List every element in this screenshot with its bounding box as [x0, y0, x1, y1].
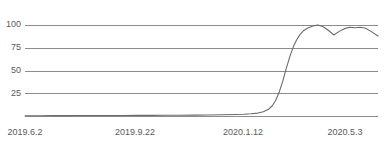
- x-tick-label-0: 2019.6.2: [7, 127, 42, 137]
- series-lines: [25, 25, 378, 116]
- y-tick-label-50: 50: [11, 65, 21, 75]
- x-tick-label-3: 2020.5.3: [328, 127, 363, 137]
- x-axis-tick-labels: 2019.6.22019.9.222020.1.122020.5.3: [7, 127, 362, 137]
- y-tick-label-25: 25: [11, 88, 21, 98]
- x-tick-label-2: 2020.1.12: [223, 127, 263, 137]
- gridlines: [25, 26, 378, 94]
- x-tick-label-1: 2019.9.22: [115, 127, 155, 137]
- line-chart: 100755025 2019.6.22019.9.222020.1.122020…: [0, 0, 384, 148]
- chart-canvas: 100755025 2019.6.22019.9.222020.1.122020…: [0, 0, 384, 148]
- y-axis-tick-labels: 100755025: [6, 19, 21, 97]
- y-tick-label-75: 75: [11, 42, 21, 52]
- y-tick-label-100: 100: [6, 19, 21, 29]
- series-line-0: [25, 25, 378, 116]
